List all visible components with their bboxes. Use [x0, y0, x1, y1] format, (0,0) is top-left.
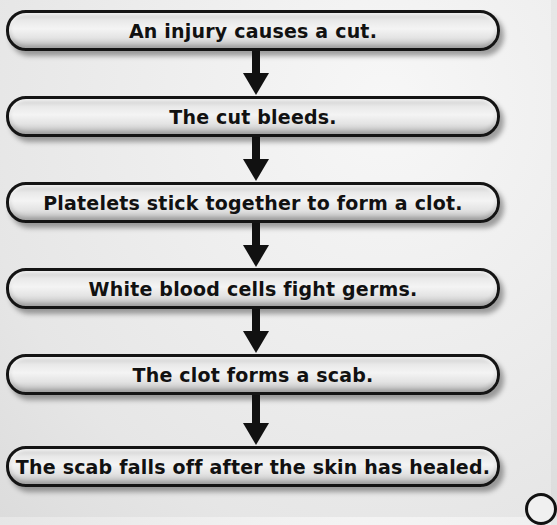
- step-label: The cut bleeds.: [169, 106, 337, 128]
- arrow-down-icon: [243, 137, 269, 181]
- step-box-1: An injury causes a cut.: [6, 10, 500, 51]
- step-box-5: The clot forms a scab.: [6, 354, 500, 395]
- step-box-2: The cut bleeds.: [6, 96, 500, 137]
- step-label: Platelets stick together to form a clot.: [43, 192, 463, 214]
- arrow-down-icon: [243, 309, 269, 353]
- step-box-3: Platelets stick together to form a clot.: [6, 182, 500, 223]
- arrow-down-icon: [243, 395, 269, 445]
- step-box-4: White blood cells fight germs.: [6, 268, 500, 309]
- arrow-down-icon: [243, 223, 269, 267]
- arrow-down-icon: [243, 51, 269, 95]
- step-label: The clot forms a scab.: [133, 364, 374, 386]
- step-label: White blood cells fight germs.: [89, 278, 418, 300]
- corner-decoration-icon: [525, 493, 557, 525]
- step-label: The scab falls off after the skin has he…: [16, 456, 490, 478]
- step-label: An injury causes a cut.: [129, 20, 377, 42]
- step-box-6: The scab falls off after the skin has he…: [6, 446, 500, 487]
